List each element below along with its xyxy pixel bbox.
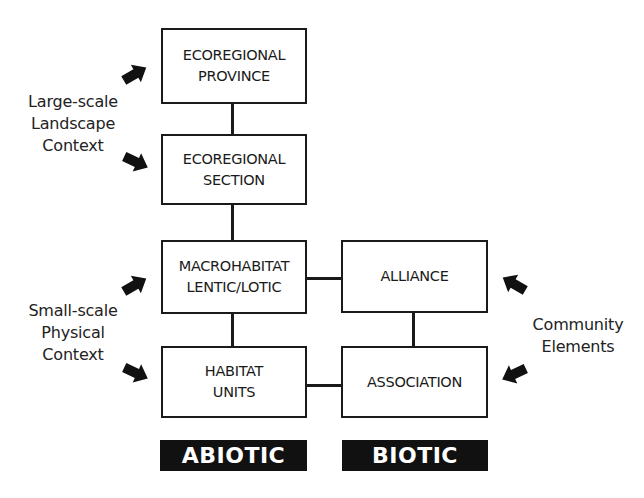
connector-macrohabitat-habitat-units — [231, 313, 234, 347]
arrow-up-right-icon — [120, 273, 150, 297]
large-scale-landscape-context-label: Large-scale Landscape Context — [12, 91, 134, 157]
box-line: ECOREGIONAL — [183, 45, 285, 66]
abiotic-label: ABIOTIC — [160, 440, 307, 471]
box-line: ALLIANCE — [380, 266, 448, 287]
community-elements-label: Community Elements — [520, 314, 636, 358]
arrow-down-right-icon — [121, 361, 151, 385]
small-scale-physical-context-label: Small-scale Physical Context — [12, 300, 134, 366]
arrow-up-right-icon — [120, 62, 150, 86]
box-line: UNITS — [213, 382, 255, 403]
box-line: ASSOCIATION — [367, 372, 462, 393]
box-line: ECOREGIONAL — [183, 149, 285, 170]
box-association: ASSOCIATION — [341, 346, 488, 418]
side-label-line: Physical — [12, 322, 134, 344]
connector-province-section — [231, 103, 234, 135]
side-label-line: Elements — [520, 336, 636, 358]
connector-section-macrohabitat — [231, 204, 234, 241]
box-line: HABITAT — [205, 361, 263, 382]
box-line: SECTION — [203, 170, 265, 191]
biotic-label: BIOTIC — [342, 440, 488, 471]
connector-habitat-units-association — [306, 384, 342, 387]
arrow-down-left-icon — [499, 362, 529, 386]
side-label-line: Context — [12, 344, 134, 366]
side-label-line: Landscape — [12, 113, 134, 135]
side-label-line: Community — [520, 314, 636, 336]
box-alliance: ALLIANCE — [341, 240, 488, 313]
arrow-up-left-icon — [499, 272, 529, 296]
side-label-line: Large-scale — [12, 91, 134, 113]
box-line: PROVINCE — [198, 66, 270, 87]
box-habitat-units: HABITAT UNITS — [161, 346, 307, 418]
box-ecoregional-province: ECOREGIONAL PROVINCE — [161, 28, 307, 104]
connector-macrohabitat-alliance — [306, 277, 342, 280]
box-line: LENTIC/LOTIC — [187, 277, 282, 298]
side-label-line: Context — [12, 135, 134, 157]
box-line: MACROHABITAT — [179, 256, 290, 277]
connector-alliance-association — [412, 312, 415, 347]
box-ecoregional-section: ECOREGIONAL SECTION — [161, 134, 307, 205]
box-macrohabitat: MACROHABITAT LENTIC/LOTIC — [161, 240, 307, 314]
arrow-down-right-icon — [121, 150, 151, 174]
side-label-line: Small-scale — [12, 300, 134, 322]
